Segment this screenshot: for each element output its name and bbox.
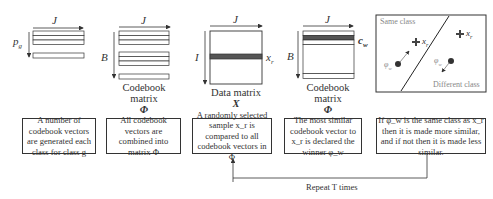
caption-text: Codebook matrix bbox=[122, 82, 165, 104]
phi-same-label: φw bbox=[384, 60, 392, 71]
codebook-matrix-winner-caption: Codebook matrix Φ bbox=[293, 82, 363, 115]
x-diff-label: xr bbox=[466, 29, 472, 40]
panel1-pg-label: pg bbox=[13, 36, 22, 50]
panel3-j-label: J bbox=[233, 14, 238, 25]
caption-text: Data matrix bbox=[211, 87, 261, 98]
data-matrix-figure bbox=[205, 26, 262, 84]
different-class-label: Different class bbox=[433, 80, 480, 89]
step-text: If φ_w is the same class as x_r then it … bbox=[378, 115, 484, 157]
codebook-matrix-winner-figure bbox=[298, 26, 354, 79]
panel3-xr-label: xr bbox=[266, 52, 274, 66]
same-class-label: Same class bbox=[380, 17, 415, 26]
codebook-matrix-caption: Codebook matrix Φ bbox=[109, 82, 179, 115]
step-box-2: All codebook vectors are combined into m… bbox=[106, 118, 181, 154]
panel4-cw-label: cw bbox=[358, 35, 368, 49]
step-text: The most similar codebook vector to x_r … bbox=[286, 115, 360, 157]
step-box-5: If φ_w is the same class as x_r then it … bbox=[376, 118, 486, 154]
caption-text: Codebook matrix bbox=[306, 82, 349, 104]
step-box-3: A randomly selected sample x_r is compar… bbox=[192, 118, 272, 154]
step-box-1: A number of codebook vectors are generat… bbox=[22, 118, 96, 154]
codebook-matrix-figure bbox=[114, 27, 170, 79]
step-text: A randomly selected sample x_r is compar… bbox=[194, 110, 270, 163]
repeat-label: Repeat T times bbox=[306, 182, 358, 192]
phi-diff-label: φw bbox=[434, 56, 442, 67]
x-same-label: xr bbox=[422, 37, 428, 48]
panel1-j-label: J bbox=[52, 15, 57, 26]
caption-symbol: X bbox=[201, 98, 271, 109]
step-text: All codebook vectors are combined into m… bbox=[108, 115, 179, 157]
codebook-vectors-figure bbox=[29, 28, 84, 58]
panel4-b-label: B bbox=[287, 51, 294, 62]
step-box-4: The most similar codebook vector to x_r … bbox=[284, 118, 362, 154]
caption-symbol: Φ bbox=[109, 104, 179, 115]
caption-symbol: Φ bbox=[293, 104, 363, 115]
data-matrix-caption: Data matrix X bbox=[201, 87, 271, 109]
panel2-b-label: B bbox=[101, 52, 108, 63]
panel3-i-label: I bbox=[195, 52, 199, 63]
panel4-j-label: J bbox=[325, 14, 330, 25]
panel2-j-label: J bbox=[141, 15, 146, 26]
step-text: A number of codebook vectors are generat… bbox=[24, 115, 94, 157]
